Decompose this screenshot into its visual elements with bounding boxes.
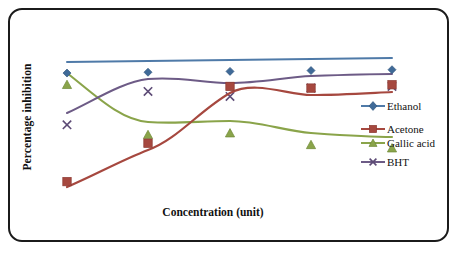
legend-label-ethanol: Ethanol (387, 98, 421, 114)
legend-item-bht[interactable]: BHT (360, 154, 460, 170)
legend-swatch-ethanol-diamond-icon (360, 98, 386, 114)
y-axis-label: Percentage inhibition (21, 57, 39, 177)
legend-swatch-gallic-acid-triangle-icon (360, 135, 386, 151)
legend-label-bht: BHT (387, 154, 409, 170)
chart-legend: Ethanol Acetone Gallic acid (360, 90, 460, 164)
chart-plot-area: Percentage inhibition Concentration (uni… (0, 0, 461, 256)
legend-swatch-bht-cross-icon (360, 154, 386, 170)
legend-label-gallic-acid: Gallic acid (387, 135, 435, 151)
legend-item-ethanol[interactable]: Ethanol (360, 98, 460, 114)
legend-item-gallic-acid[interactable]: Gallic acid (360, 135, 460, 151)
x-axis-label: Concentration (unit) (88, 206, 338, 218)
